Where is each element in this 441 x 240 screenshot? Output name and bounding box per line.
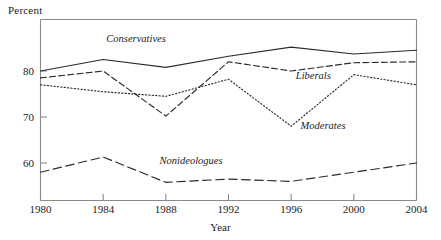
series-line-liberals (41, 62, 417, 116)
x-axis-ticks (41, 194, 417, 201)
x-tick-label-1988: 1988 (155, 203, 178, 215)
series-line-moderates (41, 75, 417, 127)
x-axis-tick-labels: 1980 1984 1988 1992 1996 2000 2004 (30, 203, 429, 215)
data-series-group (41, 47, 417, 182)
x-tick-label-2004: 2004 (406, 203, 429, 215)
line-chart-plot: 80 70 60 1980 1984 1988 1992 1996 2000 2… (0, 0, 441, 240)
x-tick-label-2000: 2000 (343, 203, 366, 215)
y-tick-label-70: 70 (23, 111, 35, 123)
x-tick-label-1980: 1980 (30, 203, 53, 215)
series-label-moderates: Moderates (300, 120, 346, 131)
y-axis-tick-labels: 80 70 60 (23, 65, 35, 169)
series-line-conservatives (41, 47, 417, 71)
series-line-nonideologues (41, 157, 417, 182)
series-label-liberals: Liberals (295, 70, 331, 81)
chart-figure: Percent 80 70 60 (0, 0, 441, 240)
plot-frame (41, 20, 417, 201)
y-tick-label-80: 80 (23, 65, 35, 77)
series-label-nonideologues: Nonideologues (159, 155, 223, 166)
x-tick-label-1984: 1984 (92, 203, 115, 215)
x-axis-title: Year (0, 221, 441, 233)
series-label-conservatives: Conservatives (106, 33, 166, 44)
y-tick-label-60: 60 (23, 157, 35, 169)
x-tick-label-1996: 1996 (280, 203, 303, 215)
x-tick-label-1992: 1992 (218, 203, 240, 215)
